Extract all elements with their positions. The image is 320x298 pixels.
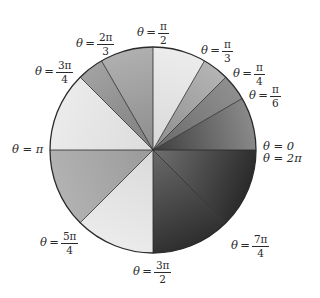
label-2pi: θ = 2π bbox=[263, 152, 302, 164]
theta-eq: θ = bbox=[137, 27, 156, 39]
label-pi-over-3: θ = π3 bbox=[201, 39, 233, 63]
theta-eq: θ = bbox=[249, 90, 268, 102]
label-zero-and-2pi: θ = 0 θ = 2π bbox=[263, 140, 302, 164]
fraction: π6 bbox=[270, 84, 281, 108]
fraction: π4 bbox=[254, 62, 265, 86]
label-7pi-over-4: θ = 7π4 bbox=[231, 234, 269, 258]
label-pi-over-4: θ = π4 bbox=[233, 62, 265, 86]
fraction: 2π3 bbox=[97, 32, 115, 56]
fraction: π3 bbox=[222, 39, 233, 63]
theta-eq: θ = bbox=[231, 240, 250, 252]
fraction: 7π4 bbox=[252, 234, 270, 258]
label-pi-over-6: θ = π6 bbox=[249, 84, 281, 108]
label-3pi-over-4: θ = 3π4 bbox=[35, 60, 73, 84]
fraction: 3π4 bbox=[56, 60, 74, 84]
theta-eq: θ = bbox=[35, 66, 54, 78]
theta-eq: θ = bbox=[76, 38, 95, 50]
label-pi: θ = π bbox=[12, 143, 43, 155]
label-3pi-over-2: θ = 3π2 bbox=[133, 260, 171, 284]
fraction: 5π4 bbox=[61, 231, 79, 255]
label-pi-over-2: θ = π2 bbox=[137, 21, 169, 45]
theta-eq: θ = bbox=[201, 45, 220, 57]
sector-boundary-lines bbox=[50, 47, 256, 253]
label-2pi-over-3: θ = 2π3 bbox=[76, 32, 114, 56]
theta-eq: θ = bbox=[133, 266, 152, 278]
fraction: π2 bbox=[158, 21, 169, 45]
theta-eq: θ = bbox=[233, 68, 252, 80]
label-5pi-over-4: θ = 5π4 bbox=[40, 231, 78, 255]
theta-eq: θ = bbox=[40, 237, 59, 249]
fraction: 3π2 bbox=[154, 260, 172, 284]
